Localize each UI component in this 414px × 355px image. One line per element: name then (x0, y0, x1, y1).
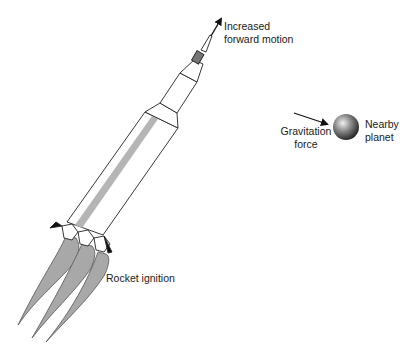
forward-motion-arrow (211, 19, 221, 36)
rocket-ignition-label: Rocket ignition (106, 272, 175, 285)
nearby-planet-label: Nearby planet (365, 118, 399, 143)
gravitation-force-label: Gravitation force (275, 125, 337, 150)
rocket-exhaust-flames (18, 236, 109, 342)
rocket-gravity-diagram (0, 0, 414, 355)
rocket-tip (201, 35, 212, 52)
rocket (50, 35, 212, 253)
nozzle-middle (78, 230, 94, 246)
gravitation-force-arrow (294, 113, 327, 124)
fin-left (50, 222, 62, 228)
forward-motion-label: Increased forward motion (224, 20, 293, 45)
